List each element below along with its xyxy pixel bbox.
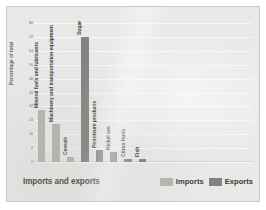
bar: Citrus fruits: [124, 159, 131, 162]
bar-category-label: Fish: [134, 146, 140, 156]
gridline: [34, 162, 252, 163]
bar: Machinery and transportation equipment: [52, 124, 59, 162]
gridline: [34, 37, 252, 38]
y-tick-label: 24: [17, 117, 33, 123]
y-tick-label: 16: [17, 131, 33, 137]
chart-legend: ImportsExports: [160, 177, 253, 186]
y-tick-label: 56: [17, 62, 33, 68]
x-axis-title: Imports and exports: [23, 177, 100, 186]
y-tick-label: 80: [17, 20, 33, 26]
bar: Cereals: [67, 157, 74, 162]
legend-label: Imports: [176, 177, 204, 186]
y-tick-label: 0: [17, 159, 33, 165]
y-tick-label: 48: [17, 76, 33, 82]
bar: Fish: [139, 159, 146, 162]
bar-category-label: Petroleum products: [91, 101, 97, 148]
bar: Mineral fuels and lubricants: [38, 110, 45, 162]
legend-item: Exports: [209, 177, 253, 186]
legend-swatch: [209, 178, 222, 186]
bar-category-label: Cereals: [62, 137, 68, 155]
y-tick-label: 64: [17, 48, 33, 54]
y-tick-label: 8: [17, 145, 33, 151]
bar-category-label: Mineral fuels and lubricants: [33, 42, 39, 108]
bar: Sugar: [81, 37, 88, 162]
bar-category-label: Machinery and transportation equipment: [48, 25, 54, 122]
gridline: [34, 120, 252, 121]
gridline: [34, 23, 252, 24]
bar-category-label: Nickel ore: [105, 126, 111, 150]
plot-area: Mineral fuels and lubricantsMachinery an…: [34, 23, 252, 162]
bar-category-label: Sugar: [76, 21, 82, 35]
gridline: [34, 65, 252, 66]
y-tick-label: 32: [17, 103, 33, 109]
gridline: [34, 134, 252, 135]
gridline: [34, 51, 252, 52]
bar: Nickel ore: [110, 152, 117, 162]
bar: Petroleum products: [96, 150, 103, 162]
y-tick-label: 40: [17, 90, 33, 96]
bar-category-label: Citrus fruits: [120, 128, 126, 156]
y-tick-label: 72: [17, 34, 33, 40]
gridline: [34, 79, 252, 80]
chart-figure: Percentage of total 08162432404856647280…: [6, 6, 260, 202]
legend-label: Exports: [225, 177, 253, 186]
legend-item: Imports: [160, 177, 204, 186]
gridline: [34, 106, 252, 107]
y-axis-ticks: 08162432404856647280: [17, 23, 33, 162]
gridline: [34, 93, 252, 94]
legend-swatch: [160, 178, 173, 186]
